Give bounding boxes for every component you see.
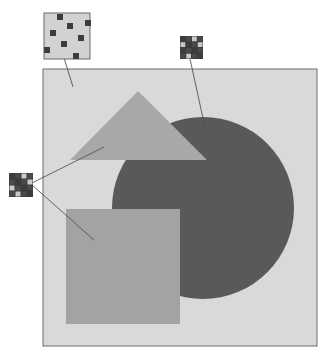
background-texture-inset xyxy=(44,13,91,59)
texture-dot xyxy=(50,30,56,36)
texture-cell xyxy=(22,186,27,191)
texture-cell xyxy=(198,37,203,42)
texture-cell xyxy=(10,180,15,185)
texture-dot xyxy=(67,23,73,29)
circle-texture-inset xyxy=(180,36,203,59)
texture-cell xyxy=(186,54,191,59)
texture-cell xyxy=(181,37,186,42)
texture-cell xyxy=(198,42,203,47)
texture-cell xyxy=(10,186,15,191)
texture-cell xyxy=(10,192,15,197)
texture-dot xyxy=(57,14,63,20)
texture-cell xyxy=(186,42,191,47)
texture-cell xyxy=(192,42,197,47)
shapes-texture-inset xyxy=(9,173,33,197)
texture-cell xyxy=(16,192,21,197)
texture-dot xyxy=(85,20,91,26)
square-shape xyxy=(66,209,180,324)
texture-cell xyxy=(22,180,27,185)
texture-cell xyxy=(198,54,203,59)
texture-cell xyxy=(28,174,33,179)
texture-cell xyxy=(198,48,203,53)
texture-cell xyxy=(192,48,197,53)
texture-cell xyxy=(16,186,21,191)
texture-dot xyxy=(78,35,84,41)
texture-cell xyxy=(28,192,33,197)
texture-dot xyxy=(61,41,67,47)
texture-cell xyxy=(192,37,197,42)
texture-cell xyxy=(22,192,27,197)
texture-cell xyxy=(22,174,27,179)
texture-cell xyxy=(192,54,197,59)
texture-cell xyxy=(16,174,21,179)
texture-cell xyxy=(181,54,186,59)
texture-cell xyxy=(28,186,33,191)
texture-cell xyxy=(16,180,21,185)
texture-cell xyxy=(181,48,186,53)
texture-cell xyxy=(10,174,15,179)
texture-cell xyxy=(186,48,191,53)
texture-cell xyxy=(28,180,33,185)
texture-cell xyxy=(181,42,186,47)
texture-dot xyxy=(73,53,79,59)
texture-cell xyxy=(186,37,191,42)
texture-diagram xyxy=(0,0,327,359)
texture-dot xyxy=(44,47,50,53)
